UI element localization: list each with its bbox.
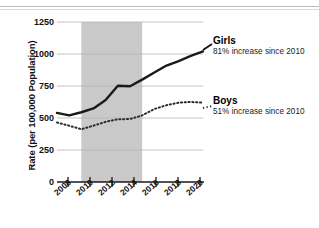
boys-legend-connector — [203, 106, 212, 108]
legend-note-girls: 81% increase since 2010 — [213, 47, 305, 56]
legend-title-girls: Girls — [213, 35, 236, 46]
legend-title-boys: Boys — [213, 95, 237, 106]
legend-note-boys: 51% increase since 2010 — [213, 107, 305, 116]
girls-legend-connector — [203, 44, 212, 50]
chart-figure: Rate (per 100,000 Population) 1250 1000 … — [0, 0, 319, 228]
shaded-band — [81, 22, 142, 182]
